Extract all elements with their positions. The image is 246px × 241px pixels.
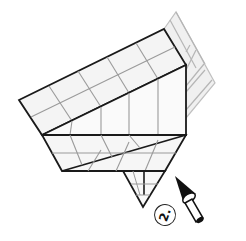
lower-band	[42, 135, 186, 171]
origami-diagram	[0, 0, 246, 241]
bottom-flap	[123, 171, 165, 207]
push-arrow-icon	[175, 176, 205, 224]
